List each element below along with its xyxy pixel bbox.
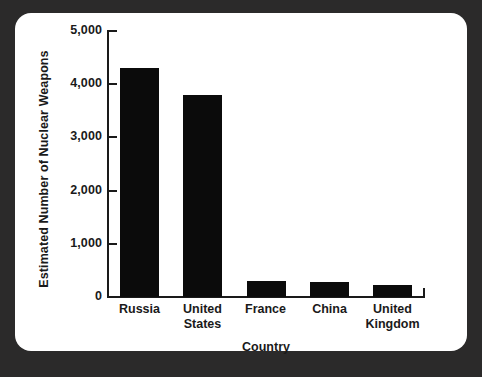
bar-russia xyxy=(120,68,159,297)
x-axis-label-russia: Russia xyxy=(108,302,171,317)
bar-france xyxy=(247,281,286,297)
bar-united-states xyxy=(183,95,222,297)
x-axis-label-united-kingdom: United Kingdom xyxy=(361,302,424,332)
y-axis-title: Estimated Number of Nuclear Weapons xyxy=(37,39,51,299)
x-axis-title: Country xyxy=(107,340,425,354)
x-axis-label-france: France xyxy=(234,302,297,317)
x-axis-label-china: China xyxy=(298,302,361,317)
bar-chart: 5,0004,0003,0002,0001,0000 RussiaUnited … xyxy=(0,0,482,377)
bar-united-kingdom xyxy=(373,285,412,297)
bar-china xyxy=(310,282,349,297)
x-axis-label-united-states: United States xyxy=(171,302,234,332)
